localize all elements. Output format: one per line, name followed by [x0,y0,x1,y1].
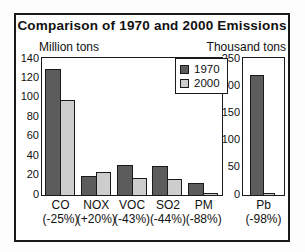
bar-1970-CO [45,69,61,195]
y-tick-120: 120 [17,71,39,83]
category-percent-change: (-98%) [234,213,294,227]
category-name: Pb [234,199,294,213]
legend-label-2000: 2000 [194,77,220,89]
legend-item-2000: 2000 [180,76,223,90]
legend-swatch-2000 [180,79,189,88]
legend-item-1970: 1970 [180,62,223,76]
bar-2000-NOX [96,172,111,195]
legend-swatch-1970 [180,65,189,74]
bar-1970-Pb [250,75,264,195]
left-axis-unit-label: Million tons [39,40,99,54]
y-tick-60: 60 [17,129,39,141]
emissions-chart-screen: Comparison of 1970 and 2000 Emissions Mi… [0,0,305,252]
bar-1970-PM [188,183,204,195]
legend-label-1970: 1970 [194,63,220,75]
y-tick-140: 140 [17,52,39,64]
right-plot-area [242,57,285,196]
bar-2000-CO [60,100,75,195]
y-tick-150: 150 [214,106,240,118]
y-tick-50: 50 [214,160,240,172]
x-label-PM: PM(-88%) [174,199,234,226]
bar-2000-VOC [132,178,147,195]
y-tick-40: 40 [17,149,39,161]
y-tick-80: 80 [17,110,39,122]
category-name: PM [174,199,234,213]
y-tick-20: 20 [17,168,39,180]
bar-1970-SO2 [152,166,168,195]
x-label-Pb: Pb(-98%) [234,199,294,226]
chart-title: Comparison of 1970 and 2000 Emissions [16,18,288,33]
y-tick-0: 0 [214,188,240,200]
bar-2000-Pb [263,193,275,195]
y-tick-100: 100 [214,133,240,145]
chart-frame: Comparison of 1970 and 2000 Emissions Mi… [14,13,290,242]
category-percent-change: (-88%) [174,213,234,227]
bar-1970-VOC [117,165,133,195]
bar-2000-SO2 [167,179,182,196]
legend: 1970 2000 [175,58,228,94]
y-tick-100: 100 [17,90,39,102]
y-tick-0: 0 [17,188,39,200]
bar-1970-NOX [81,176,97,195]
